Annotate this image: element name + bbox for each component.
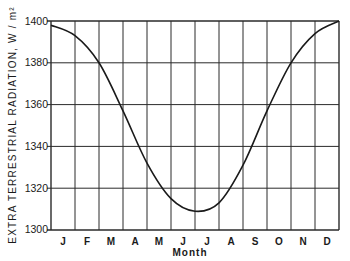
x-tick-jun: J [173,236,193,247]
y-axis-label-container: EXTRA TERRESTRIAL RADIATION, W / m² [4,14,20,236]
x-tick-apr: A [125,236,145,247]
x-tick-feb: F [77,236,97,247]
y-tick-1360: 1360 [14,98,48,110]
x-tick-may: M [149,236,169,247]
x-axis-label: Month [150,247,230,258]
x-tick-mar: M [101,236,121,247]
x-tick-aug: A [221,236,241,247]
y-tick-1300: 1300 [14,223,48,235]
y-tick-1340: 1340 [14,140,48,152]
x-tick-oct: O [269,236,289,247]
y-tick-1320: 1320 [14,182,48,194]
x-tick-jan: J [53,236,73,247]
x-tick-jul: J [197,236,217,247]
plot-area [0,0,350,261]
y-axis-label: EXTRA TERRESTRIAL RADIATION, W / m² [7,6,18,243]
y-tick-1400: 1400 [14,15,48,27]
x-tick-sep: S [245,236,265,247]
x-tick-dec: D [317,236,337,247]
y-tick-1380: 1380 [14,56,48,68]
x-tick-nov: N [293,236,313,247]
